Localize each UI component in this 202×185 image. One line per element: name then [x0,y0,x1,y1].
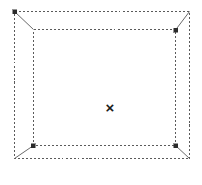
diagram-canvas: × [0,0,202,185]
handle-inner-top-right[interactable] [174,28,178,32]
outer-frame-rect[interactable] [15,12,190,159]
center-cross-marker[interactable]: × [106,100,115,115]
connector-top-right-line [176,12,190,31]
frame-diagram-svg [0,0,202,185]
handle-outer-top-left[interactable] [13,10,17,14]
inner-frame-rect[interactable] [34,30,176,146]
handle-inner-bottom-left[interactable] [31,144,35,148]
connector-bottom-left-line [15,146,34,159]
handle-inner-bottom-right[interactable] [174,144,178,148]
connector-top-left-line [15,12,34,30]
